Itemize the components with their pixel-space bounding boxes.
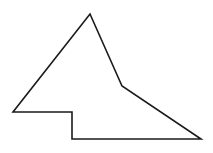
irregular-polygon-shape — [13, 14, 201, 139]
diagram-canvas — [0, 0, 213, 153]
